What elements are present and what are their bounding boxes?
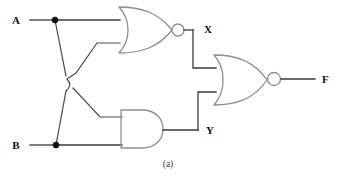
- input-a-wire-group: [30, 17, 122, 117]
- figure-caption: (a): [163, 159, 174, 170]
- junction-dot-a: [52, 17, 58, 23]
- gate-nor-1[interactable]: [119, 7, 184, 53]
- wire-b-diagonal-lower: [56, 91, 66, 145]
- nor2-inversion-bubble-icon: [268, 73, 281, 86]
- node-x-label: X: [204, 23, 212, 35]
- nor1-body-shape: [119, 7, 172, 53]
- input-a-label: A: [12, 14, 20, 26]
- wire-b-diagonal-upper-to-nor1: [67, 43, 120, 79]
- logic-circuit-figure: A B X Y F (a): [0, 0, 341, 184]
- gate-nor-2[interactable]: [214, 55, 281, 105]
- input-b-label: B: [12, 139, 20, 151]
- circuit-svg-canvas: A B X Y F (a): [0, 0, 341, 184]
- junction-dot-b: [53, 142, 59, 148]
- output-f-label: F: [322, 73, 329, 85]
- gate-and-1[interactable]: [121, 110, 163, 148]
- wire-crossing-hop-icon: [66, 79, 70, 91]
- and1-body-shape: [121, 110, 163, 148]
- nor1-inversion-bubble-icon: [172, 24, 184, 36]
- node-x-wire-group: [184, 30, 216, 68]
- nor2-body-shape: [214, 55, 267, 105]
- input-b-wire-group: [30, 43, 122, 148]
- wire-a-diagonal-upper: [55, 20, 66, 76]
- wire-x-to-nor2-input: [193, 30, 216, 68]
- wire-a-diagonal-lower-to-and: [73, 88, 122, 117]
- node-y-label: Y: [206, 124, 214, 136]
